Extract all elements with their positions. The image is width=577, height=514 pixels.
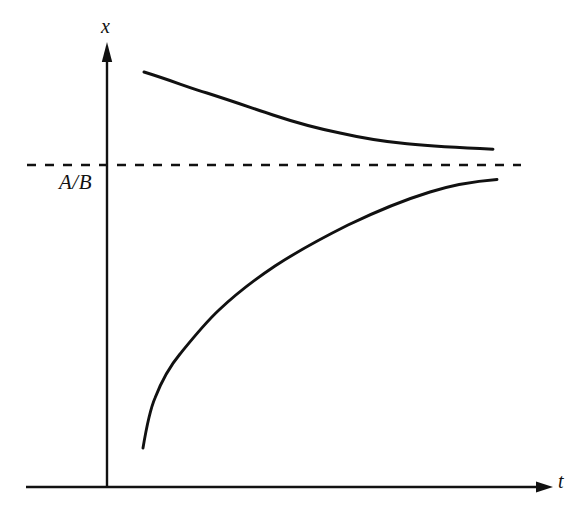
curve-above-asymptote	[144, 72, 493, 149]
x-axis-label: t	[558, 471, 564, 491]
asymptote-value-label: A/B	[59, 172, 92, 193]
x-axis-arrowhead	[536, 482, 553, 493]
y-axis-arrowhead	[102, 42, 112, 62]
figure-container: x t A/B	[0, 0, 577, 514]
y-axis-label: x	[101, 16, 110, 36]
curve-below-asymptote	[143, 180, 497, 449]
phase-plot-svg	[0, 0, 577, 514]
